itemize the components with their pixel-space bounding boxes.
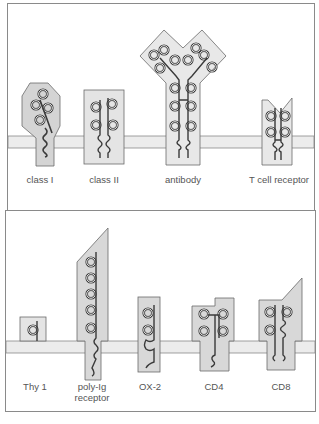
label-class-ii: class II [89,174,119,185]
label-cd4: CD4 [204,381,223,392]
label-thy1: Thy 1 [23,381,47,392]
label-class-i: class I [27,174,54,185]
immunoglobulin-superfamily-diagram [0,0,319,424]
label-t-cell-receptor: T cell receptor [249,174,309,185]
label-ox2: OX-2 [139,381,161,392]
label-cd8: CD8 [271,381,290,392]
ox2-molecule [138,297,160,372]
label-poly-ig-line1: poly-Ig [78,381,107,392]
thy1-molecule [20,317,46,341]
label-poly-ig-line2: receptor [75,392,110,403]
label-antibody: antibody [165,174,201,185]
class-ii-molecule [84,90,124,164]
